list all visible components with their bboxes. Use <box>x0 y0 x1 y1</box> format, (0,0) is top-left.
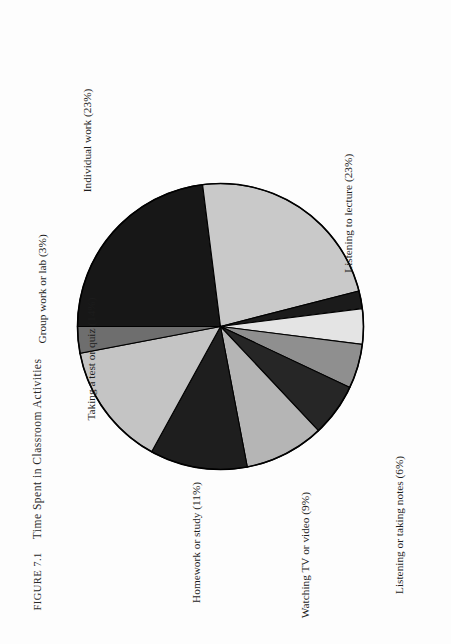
pie-chart-svg <box>70 176 370 476</box>
pie-slice-label: Group work or lab (3%) <box>35 234 47 343</box>
pie-slice-label: Watching TV or video (9%) <box>298 492 310 618</box>
rotated-figure-stage: Figure 7.1 Time Spent in Classroom Activ… <box>0 0 451 644</box>
figure-page: Figure 7.1 Time Spent in Classroom Activ… <box>0 0 451 644</box>
pie-slice-label: Listening or taking notes (6%) <box>392 455 404 593</box>
pie-chart: Individual work (23%)Listening to lectur… <box>70 176 370 476</box>
figure-caption: Figure 7.1 Time Spent in Classroom Activ… <box>26 358 44 610</box>
pie-slice-label: Taking a test or quiz (14%) <box>84 297 96 420</box>
pie-slice-label: Listening to lecture (23%) <box>341 153 353 272</box>
pie-slice-label: Individual work (23%) <box>80 88 92 192</box>
page-title: Time Spent in Classroom Activities <box>30 358 42 539</box>
pie-slice-label: Homework or study (11%) <box>189 481 201 602</box>
figure-number: Figure 7.1 <box>31 552 42 610</box>
pie-slice[interactable] <box>77 184 220 326</box>
